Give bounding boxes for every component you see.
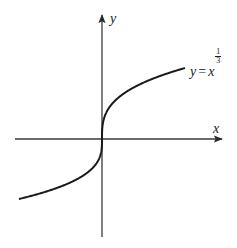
equation-base: x [208, 64, 214, 79]
curve-equation-label: y=x13 [190, 61, 221, 79]
equation-exponent: 13 [215, 48, 221, 65]
equation-equals: = [198, 64, 206, 79]
x-axis-label: x [213, 122, 219, 136]
equation-lhs: y [190, 64, 196, 79]
y-axis-label: y [110, 12, 116, 26]
exponent-denominator: 3 [215, 57, 221, 65]
cube-root-plot [0, 0, 237, 248]
